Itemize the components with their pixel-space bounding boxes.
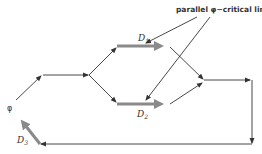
annotation-leader-d2 (146, 17, 210, 100)
edge-n2-to-top (89, 48, 116, 75)
edge-n2-to-bottom (89, 75, 116, 102)
edge-bottom-to-merge (170, 83, 202, 104)
annotation-leader-d1 (146, 17, 197, 43)
label-d3: D3 (16, 135, 28, 146)
label-d2: D2 (136, 109, 148, 120)
edge-phi-to-n1 (16, 76, 41, 100)
annotation-label: parallel φ−critical links (176, 5, 262, 14)
label-d1: D1 (137, 33, 149, 44)
flow-diagram: parallel φ−critical links φ D1 D2 D3 (0, 0, 262, 154)
source-node-label: φ (7, 104, 12, 113)
